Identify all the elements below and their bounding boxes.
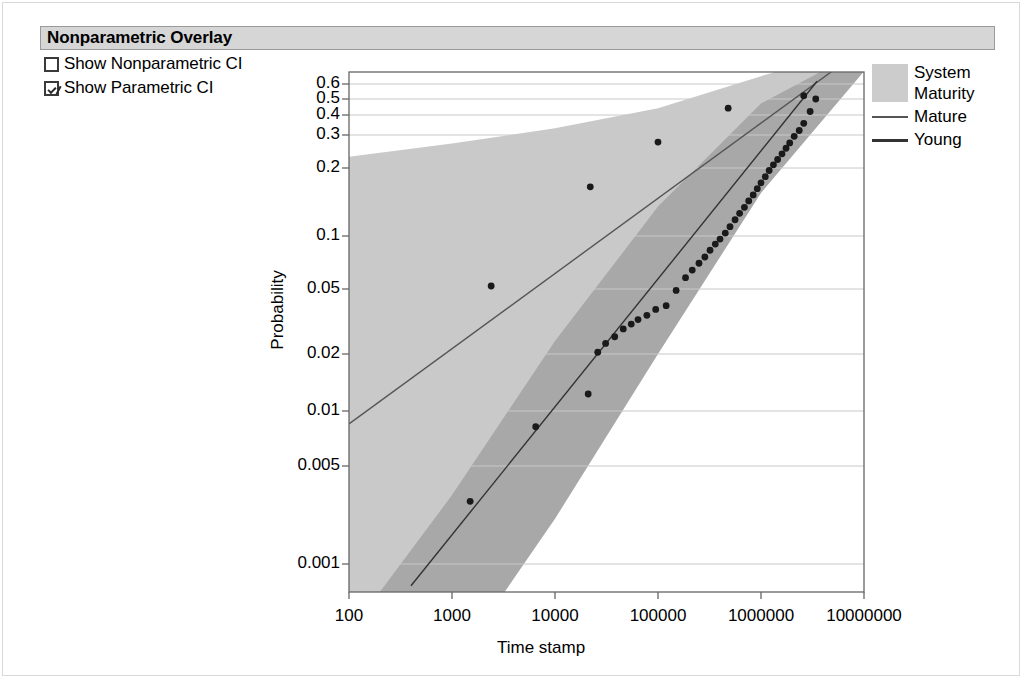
option-show-parametric-ci[interactable]: Show Parametric CI xyxy=(44,78,213,98)
y-tick-label: 0.4 xyxy=(250,104,340,124)
legend-title: SystemMaturity xyxy=(914,62,974,104)
nonparametric-overlay-panel-header[interactable]: Nonparametric Overlay xyxy=(40,26,995,50)
legend-maturity-group: SystemMaturity xyxy=(872,62,1022,104)
x-tick-label: 10000000 xyxy=(784,606,944,626)
checkbox-empty-icon[interactable] xyxy=(44,57,59,72)
legend-band-swatch xyxy=(872,64,908,102)
fit-line-young xyxy=(411,81,817,585)
checkbox-checked-icon[interactable] xyxy=(44,81,59,96)
y-tick-label: 0.02 xyxy=(250,343,340,363)
legend-line-young-icon xyxy=(872,139,908,142)
plot-frame xyxy=(349,72,864,592)
chart-legend: SystemMaturity Mature Young xyxy=(872,62,1022,150)
legend-line-mature-icon xyxy=(872,116,908,118)
plot-content xyxy=(349,46,864,668)
option-label-nonparametric: Show Nonparametric CI xyxy=(64,54,242,74)
y-tick-label: 0.005 xyxy=(250,455,340,475)
legend-label-young: Young xyxy=(914,130,962,150)
legend-title-line1: System xyxy=(914,63,971,82)
ci-band-young xyxy=(349,49,864,669)
ci-band-mature xyxy=(349,46,864,656)
y-tick-label: 0.001 xyxy=(250,553,340,573)
y-tick-label: 0.2 xyxy=(250,157,340,177)
axis-ticks xyxy=(342,84,864,599)
legend-entry-young[interactable]: Young xyxy=(872,130,1022,150)
y-axis-title: Probability xyxy=(268,250,288,370)
y-tick-label: 0.3 xyxy=(250,124,340,144)
page-border xyxy=(2,2,1020,676)
gridlines xyxy=(349,84,864,564)
x-axis-title: Time stamp xyxy=(497,638,585,658)
fit-line-mature xyxy=(349,48,864,424)
legend-title-line2: Maturity xyxy=(914,84,974,103)
legend-label-mature: Mature xyxy=(914,107,967,127)
option-show-nonparametric-ci[interactable]: Show Nonparametric CI xyxy=(44,54,242,74)
option-label-parametric: Show Parametric CI xyxy=(64,78,213,98)
screenshot-root: Nonparametric Overlay Show Nonparametric… xyxy=(0,0,1026,682)
data-points xyxy=(467,92,819,504)
legend-entry-mature[interactable]: Mature xyxy=(872,107,1022,127)
y-tick-label: 0.05 xyxy=(250,278,340,298)
y-tick-label: 0.01 xyxy=(250,400,340,420)
y-tick-label: 0.1 xyxy=(250,225,340,245)
panel-title: Nonparametric Overlay xyxy=(41,28,232,48)
